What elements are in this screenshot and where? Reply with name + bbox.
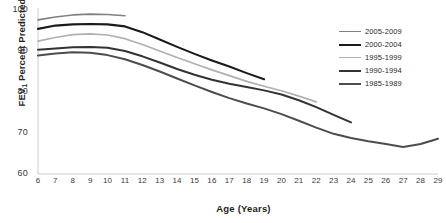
legend-label-1990-1994: 1990-1994 [365,66,402,75]
series-line-2005-2009 [38,14,125,20]
legend-label-1995-1999: 1995-1999 [365,53,402,62]
x-tick-24: 24 [343,176,359,185]
x-tick-29: 29 [430,176,446,185]
x-tick-21: 21 [291,176,307,185]
legend-swatch-2000-2004 [339,44,361,46]
x-tick-6: 6 [30,176,46,185]
x-tick-16: 16 [204,176,220,185]
x-tick-7: 7 [47,176,63,185]
legend-swatch-2005-2009 [339,31,361,32]
x-tick-13: 13 [152,176,168,185]
legend: 2005-20092000-20041995-19991990-19941985… [336,22,441,94]
legend-label-1985-1989: 1985-1989 [365,79,402,88]
x-tick-23: 23 [326,176,342,185]
x-tick-12: 12 [134,176,150,185]
series-line-1995-1999 [38,34,316,102]
x-tick-26: 26 [378,176,394,185]
x-tick-17: 17 [221,176,237,185]
x-tick-27: 27 [395,176,411,185]
legend-item-1985-1989: 1985-1989 [339,77,439,90]
x-tick-18: 18 [239,176,255,185]
x-tick-8: 8 [65,176,81,185]
legend-label-2000-2004: 2000-2004 [365,40,402,49]
legend-item-2005-2009: 2005-2009 [339,25,439,38]
x-tick-19: 19 [256,176,272,185]
x-tick-28: 28 [413,176,429,185]
x-tick-10: 10 [100,176,116,185]
legend-swatch-1990-1994 [339,70,361,72]
legend-item-1990-1994: 1990-1994 [339,64,439,77]
legend-swatch-1995-1999 [339,57,361,58]
x-tick-20: 20 [273,176,289,185]
legend-item-1995-1999: 1995-1999 [339,51,439,64]
y-tick-70: 70 [2,127,28,137]
y-tick-90: 90 [2,45,28,55]
x-tick-15: 15 [187,176,203,185]
x-axis-title: Age (Years) [0,203,439,214]
x-tick-22: 22 [308,176,324,185]
y-tick-100: 100 [2,4,28,14]
legend-swatch-1985-1989 [339,83,361,85]
x-tick-11: 11 [117,176,133,185]
y-tick-80: 80 [2,86,28,96]
x-axis-title-text: Age (Years) [216,203,270,214]
legend-label-2005-2009: 2005-2009 [365,27,402,36]
x-tick-9: 9 [82,176,98,185]
y-axis-title: FEV1 Percent Predicted [16,0,27,118]
x-tick-14: 14 [169,176,185,185]
x-tick-25: 25 [360,176,376,185]
legend-item-2000-2004: 2000-2004 [339,38,439,51]
y-tick-60: 60 [2,168,28,178]
